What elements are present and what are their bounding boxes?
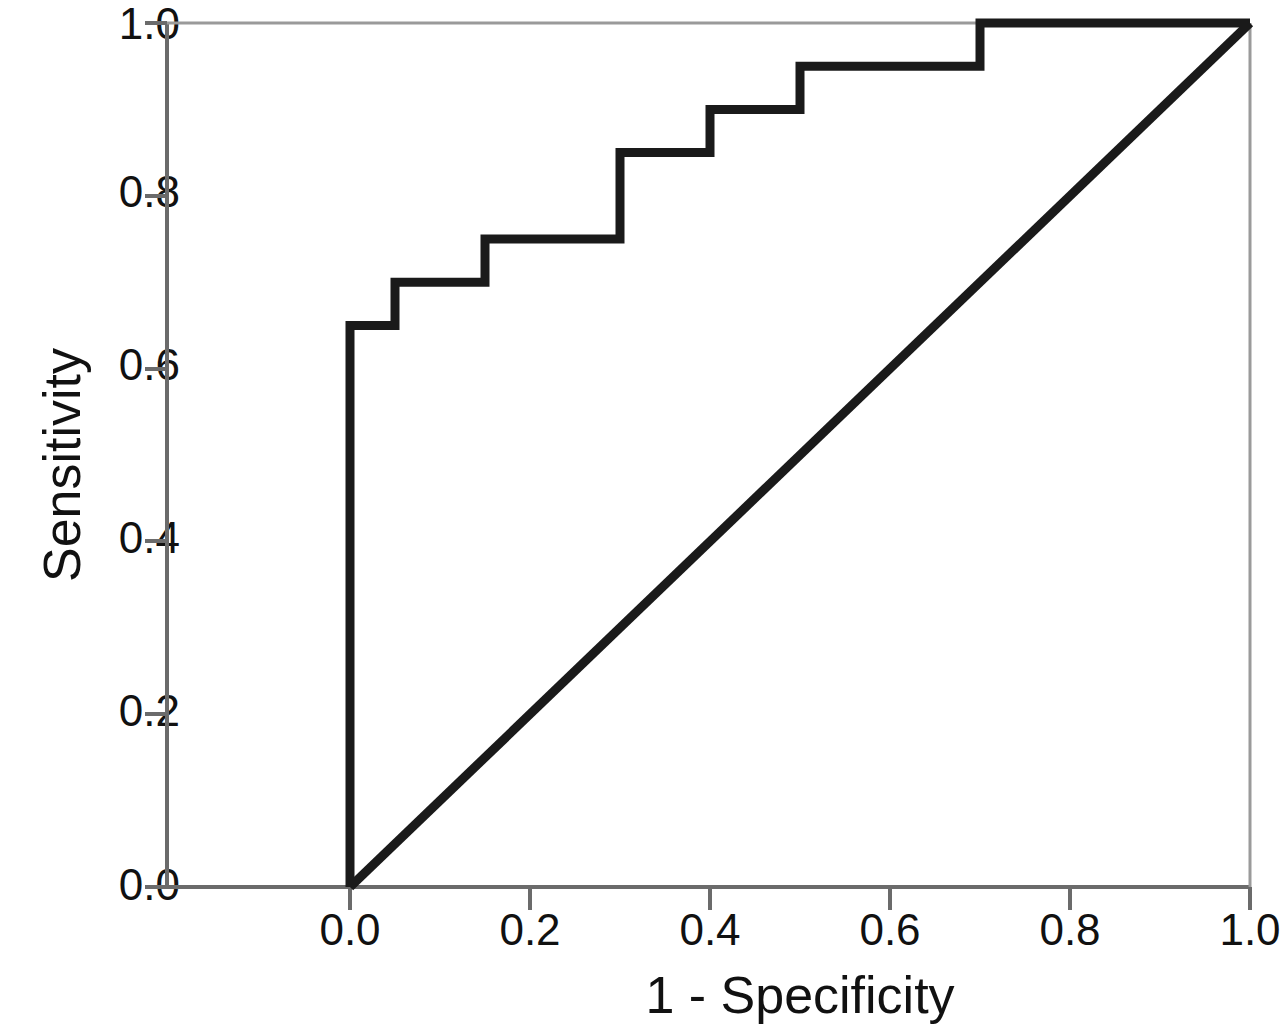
reference-diagonal-line bbox=[350, 23, 1250, 887]
